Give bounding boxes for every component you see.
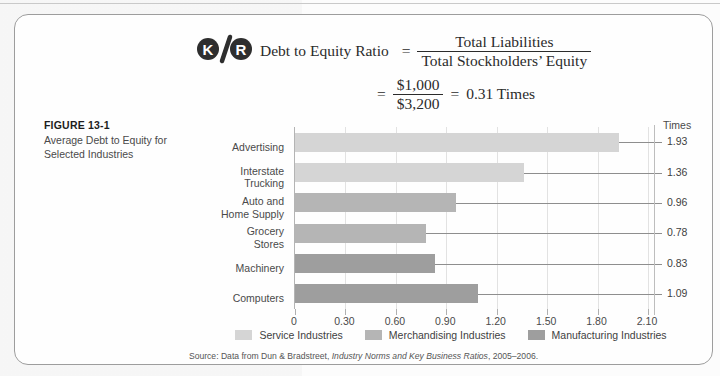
svg-text:R: R bbox=[236, 41, 247, 58]
leader-line bbox=[478, 294, 662, 295]
leader-line bbox=[426, 233, 662, 234]
chart-legend: Service IndustriesMerchandising Industri… bbox=[211, 329, 691, 341]
gridlines bbox=[295, 127, 647, 309]
formula-equals: = bbox=[395, 42, 418, 60]
figure-title: Average Debt to Equity for Selected Indu… bbox=[44, 133, 204, 162]
value-axis-tick-label: 2.10 bbox=[637, 315, 657, 327]
formula-equals-2: = bbox=[370, 85, 393, 103]
legend-item: Merchandising Industries bbox=[365, 329, 506, 341]
legend-item: Service Industries bbox=[235, 329, 342, 341]
gridline bbox=[598, 127, 599, 309]
bar-chart: AdvertisingInterstateTruckingAuto andHom… bbox=[211, 119, 711, 319]
leader-line bbox=[619, 142, 662, 143]
data-value-label: 1.09 bbox=[667, 287, 687, 299]
bar bbox=[295, 254, 435, 273]
legend-swatch bbox=[235, 330, 252, 340]
figure-caption: FIGURE 13-1 Average Debt to Equity for S… bbox=[44, 119, 204, 162]
category-label: Computers bbox=[211, 292, 290, 305]
svg-text:K: K bbox=[203, 41, 214, 58]
value-axis-tick-label: 0.30 bbox=[334, 315, 354, 327]
page-top-rule bbox=[0, 3, 720, 4]
data-value-label: 1.36 bbox=[667, 166, 687, 178]
formula-numerator: Total Liabilities bbox=[451, 33, 557, 51]
bar bbox=[295, 224, 426, 243]
formula-fraction: Total Liabilities Total Stockholders’ Eq… bbox=[417, 33, 591, 69]
gridline bbox=[446, 127, 447, 309]
data-value-label: 1.93 bbox=[667, 135, 687, 147]
value-axis-tick-label: 1.50 bbox=[536, 315, 556, 327]
value-axis-tick-label: 0 bbox=[291, 315, 297, 327]
source-prefix: Source: Data from Dun & Bradstreet, bbox=[189, 351, 332, 361]
data-value-label: 0.83 bbox=[667, 257, 687, 269]
legend-label: Manufacturing Industries bbox=[552, 329, 667, 341]
formula-line-1: Debt to Equity Ratio = Total Liabilities… bbox=[260, 33, 591, 69]
legend-item: Manufacturing Industries bbox=[528, 329, 667, 341]
bar bbox=[295, 193, 456, 212]
formula-equals-3: = bbox=[443, 85, 466, 103]
formula-label: Debt to Equity Ratio bbox=[260, 42, 395, 60]
bar bbox=[295, 133, 619, 152]
legend-label: Service Industries bbox=[259, 329, 342, 341]
figure-number: FIGURE 13-1 bbox=[44, 119, 204, 131]
times-axis-title: Times bbox=[663, 119, 691, 131]
kr-logo: K R bbox=[196, 34, 254, 64]
gridline bbox=[345, 127, 346, 309]
category-label: Auto andHome Supply bbox=[211, 195, 290, 221]
source-italic-title: Industry Norms and Key Business Ratios bbox=[332, 351, 488, 361]
formula-denominator: Total Stockholders’ Equity bbox=[417, 51, 591, 70]
value-axis-tick-label: 1.80 bbox=[586, 315, 606, 327]
formula-denominator-2: $3,200 bbox=[393, 94, 444, 113]
value-label-rule bbox=[654, 125, 655, 315]
category-label: InterstateTrucking bbox=[211, 165, 290, 191]
gridline bbox=[497, 127, 498, 309]
gridline bbox=[648, 127, 649, 309]
category-label: Advertising bbox=[211, 141, 290, 154]
value-axis-tick-label: 0.60 bbox=[385, 315, 405, 327]
leader-line bbox=[435, 264, 662, 265]
legend-swatch bbox=[365, 330, 382, 340]
data-value-label: 0.78 bbox=[667, 226, 687, 238]
legend-label: Merchandising Industries bbox=[389, 329, 506, 341]
source-suffix: , 2005–2006. bbox=[488, 351, 538, 361]
leader-line bbox=[524, 173, 662, 174]
plot-area bbox=[294, 127, 647, 309]
gridline bbox=[547, 127, 548, 309]
formula-result: 0.31 Times bbox=[466, 85, 535, 103]
formula-fraction-2: $1,000 $3,200 bbox=[393, 76, 444, 112]
figure-box: K R Debt to Equity Ratio = Total Liabili… bbox=[14, 14, 713, 365]
value-axis-tick-label: 1.20 bbox=[485, 315, 505, 327]
gridline bbox=[396, 127, 397, 309]
formula-numerator-2: $1,000 bbox=[393, 76, 444, 94]
value-axis-tick-label: 0.90 bbox=[435, 315, 455, 327]
data-value-label: 0.96 bbox=[667, 196, 687, 208]
formula-line-2: = $1,000 $3,200 = 0.31 Times bbox=[370, 76, 535, 112]
bar bbox=[295, 163, 524, 182]
leader-line bbox=[456, 203, 662, 204]
kr-logo-icon: K R bbox=[196, 34, 254, 64]
category-label: Machinery bbox=[211, 262, 290, 275]
category-label: GroceryStores bbox=[211, 225, 290, 251]
legend-swatch bbox=[528, 330, 545, 340]
source-note: Source: Data from Dun & Bradstreet, Indu… bbox=[15, 351, 712, 361]
bar bbox=[295, 284, 478, 303]
